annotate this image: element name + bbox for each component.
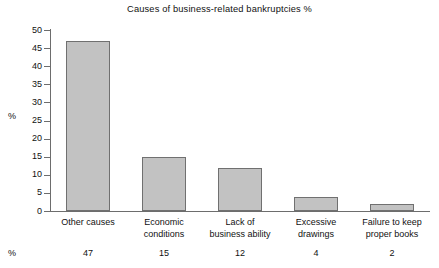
chart-title: Causes of business-related bankruptcies … bbox=[0, 4, 439, 14]
value-row-label: % bbox=[8, 248, 16, 258]
plot-area bbox=[50, 30, 430, 211]
category-label-line: drawings bbox=[274, 229, 358, 241]
category-label-line: Economic bbox=[122, 217, 206, 229]
category-label-line: Failure to keep bbox=[350, 217, 434, 229]
y-tick-label: 25 bbox=[16, 116, 42, 125]
value-cell: 12 bbox=[202, 248, 278, 258]
bar-chart-figure: Causes of business-related bankruptcies … bbox=[0, 0, 439, 268]
y-tick-label: 15 bbox=[16, 152, 42, 161]
category-label: Lack ofbusiness ability bbox=[198, 217, 282, 240]
category-label: Other causes bbox=[46, 217, 130, 229]
category-label-line: business ability bbox=[198, 229, 282, 241]
bar bbox=[218, 168, 262, 211]
y-tick-label: 10 bbox=[16, 170, 42, 179]
category-label: Economicconditions bbox=[122, 217, 206, 240]
value-cell: 47 bbox=[50, 248, 126, 258]
x-axis-line bbox=[50, 211, 430, 212]
y-tick-label: 35 bbox=[16, 80, 42, 89]
bar bbox=[294, 197, 338, 211]
category-label-line: Excessive bbox=[274, 217, 358, 229]
y-tick-label: 5 bbox=[16, 188, 42, 197]
y-axis-title: % bbox=[8, 111, 16, 121]
category-label-line: proper books bbox=[350, 229, 434, 241]
y-tick-label: 40 bbox=[16, 62, 42, 71]
category-label-line: Lack of bbox=[198, 217, 282, 229]
value-cell: 15 bbox=[126, 248, 202, 258]
value-cell: 4 bbox=[278, 248, 354, 258]
y-tick-label: 0 bbox=[16, 207, 42, 216]
y-tick-label: 45 bbox=[16, 44, 42, 53]
y-tick-label: 30 bbox=[16, 98, 42, 107]
value-cell: 2 bbox=[354, 248, 430, 258]
y-tick-mark bbox=[44, 211, 51, 212]
y-tick-label: 20 bbox=[16, 134, 42, 143]
category-label-line: conditions bbox=[122, 229, 206, 241]
bar bbox=[66, 41, 110, 211]
y-tick-label: 50 bbox=[16, 26, 42, 35]
bar bbox=[142, 157, 186, 211]
category-label: Excessivedrawings bbox=[274, 217, 358, 240]
bar bbox=[370, 204, 414, 211]
category-label: Failure to keepproper books bbox=[350, 217, 434, 240]
category-label-line: Other causes bbox=[46, 217, 130, 229]
